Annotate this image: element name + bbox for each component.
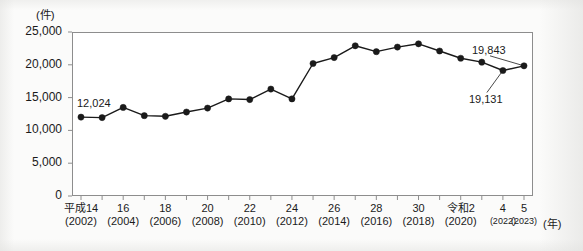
y-axis-tick-label: 20,000 — [0, 57, 62, 71]
data-point-marker — [226, 96, 232, 102]
y-axis-tick-label: 0 — [0, 188, 62, 202]
data-point-marker — [521, 63, 527, 69]
data-point-marker — [204, 105, 210, 111]
data-point-marker — [120, 104, 126, 110]
data-point-marker — [437, 48, 443, 54]
chart-page: (件) 05,00010,00015,00020,00025,000 平成14(… — [0, 0, 583, 251]
data-point-marker — [183, 109, 189, 115]
data-point-marker — [78, 114, 84, 120]
data-point-marker — [268, 86, 274, 92]
data-point-marker — [394, 44, 400, 50]
y-axis-tick-marks — [68, 32, 72, 196]
data-point-marker — [141, 113, 147, 119]
x-axis-unit-label: (年) — [543, 215, 561, 231]
data-point-marker — [458, 55, 464, 61]
data-point-marker — [415, 41, 421, 47]
data-series-line — [81, 44, 524, 118]
data-point-marker — [310, 60, 316, 66]
y-axis-tick-label: 10,000 — [0, 122, 62, 136]
data-point-marker — [247, 96, 253, 102]
x-tick-era-label: 5 — [496, 202, 552, 215]
y-axis-tick-label: 5,000 — [0, 155, 62, 169]
x-axis-tick-marks — [81, 196, 524, 200]
data-point-value-label: 19,843 — [472, 44, 506, 56]
data-point-value-label: 12,024 — [77, 97, 111, 109]
data-point-marker — [479, 59, 485, 65]
y-axis-tick-label: 15,000 — [0, 90, 62, 104]
data-point-value-label: 19,131 — [469, 93, 503, 105]
y-axis-tick-label: 25,000 — [0, 24, 62, 38]
data-point-marker — [352, 43, 358, 49]
data-point-marker — [99, 115, 105, 121]
data-point-marker — [500, 67, 506, 73]
annotation-leader-lines — [487, 56, 524, 93]
data-point-marker — [289, 96, 295, 102]
data-point-marker — [162, 113, 168, 119]
data-point-marker — [373, 49, 379, 55]
data-point-marker — [331, 54, 337, 60]
